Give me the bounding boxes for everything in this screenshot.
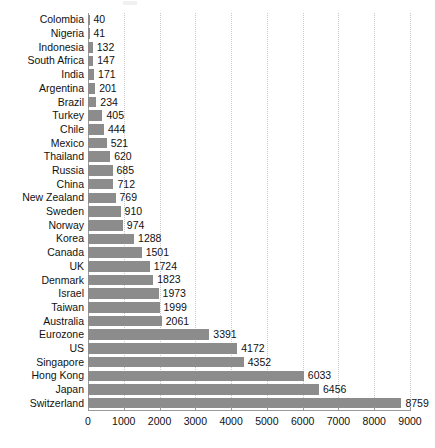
bar-rows: 4041132147171201234405444521620685712769… bbox=[88, 13, 410, 410]
category-label: US bbox=[0, 342, 84, 355]
category-label: Japan bbox=[0, 383, 84, 396]
x-tick-1000 bbox=[124, 407, 125, 411]
category-label: Korea bbox=[0, 232, 84, 245]
category-label: Chile bbox=[0, 123, 84, 136]
x-tick-label: 1000 bbox=[112, 414, 135, 428]
x-tick-label: 7000 bbox=[327, 414, 350, 428]
category-label: Israel bbox=[0, 287, 84, 300]
bar-row: 712 bbox=[88, 177, 410, 191]
x-tick-3000 bbox=[195, 407, 196, 411]
plot-area: 4041132147171201234405444521620685712769… bbox=[88, 13, 410, 410]
bar-value-label: 2061 bbox=[162, 315, 189, 328]
bar bbox=[88, 138, 107, 149]
bar-row: 8759 bbox=[88, 396, 410, 410]
category-label: New Zealand bbox=[0, 191, 84, 204]
x-tick-label: 8000 bbox=[363, 414, 386, 428]
bar bbox=[88, 247, 142, 258]
bar-row: 444 bbox=[88, 123, 410, 137]
bar-value-label: 1288 bbox=[134, 232, 161, 245]
bar-row: 974 bbox=[88, 218, 410, 232]
bar-value-label: 6033 bbox=[304, 369, 331, 382]
category-label: Russia bbox=[0, 164, 84, 177]
x-tick-label: 9000 bbox=[398, 414, 421, 428]
category-label: India bbox=[0, 68, 84, 81]
bar-value-label: 6456 bbox=[319, 383, 346, 396]
category-label: Eurozone bbox=[0, 328, 84, 341]
bar-value-label: 234 bbox=[96, 96, 118, 109]
bar bbox=[88, 151, 110, 162]
x-tick-7000 bbox=[338, 407, 339, 411]
bar bbox=[88, 124, 104, 135]
bar-row: 234 bbox=[88, 95, 410, 109]
bar bbox=[88, 288, 159, 299]
bar bbox=[88, 398, 401, 409]
category-label: Argentina bbox=[0, 82, 84, 95]
bar-row: 4352 bbox=[88, 355, 410, 369]
bar-row: 4172 bbox=[88, 342, 410, 356]
x-tick-8000 bbox=[374, 407, 375, 411]
category-label: Nigeria bbox=[0, 27, 84, 40]
x-tick-label: 6000 bbox=[291, 414, 314, 428]
x-tick-2000 bbox=[160, 407, 161, 411]
bar-row: 1501 bbox=[88, 246, 410, 260]
bar-row: 1999 bbox=[88, 300, 410, 314]
bar-row: 1724 bbox=[88, 259, 410, 273]
category-label: Thailand bbox=[0, 150, 84, 163]
category-label: Switzerland bbox=[0, 397, 84, 410]
bar bbox=[88, 110, 102, 121]
bar-value-label: 1999 bbox=[160, 301, 187, 314]
bar-value-label: 201 bbox=[95, 82, 117, 95]
bar-value-label: 405 bbox=[102, 109, 124, 122]
bar-row: 6456 bbox=[88, 383, 410, 397]
category-label: Turkey bbox=[0, 109, 84, 122]
x-tick-4000 bbox=[231, 407, 232, 411]
bar-value-label: 3391 bbox=[209, 328, 236, 341]
x-tick-label: 2000 bbox=[148, 414, 171, 428]
bar-row: 1823 bbox=[88, 273, 410, 287]
bar-value-label: 1724 bbox=[150, 260, 177, 273]
bar-row: 405 bbox=[88, 109, 410, 123]
category-label: Denmark bbox=[0, 274, 84, 287]
bar-value-label: 41 bbox=[90, 27, 106, 40]
bar-row: 910 bbox=[88, 205, 410, 219]
x-tick-0 bbox=[88, 407, 89, 411]
bar-value-label: 40 bbox=[90, 13, 106, 26]
bar-value-label: 132 bbox=[93, 41, 115, 54]
bar bbox=[88, 206, 121, 217]
bar-value-label: 521 bbox=[107, 137, 129, 150]
bar-row: 685 bbox=[88, 164, 410, 178]
bar bbox=[88, 329, 209, 340]
category-label: Australia bbox=[0, 315, 84, 328]
bar-value-label: 910 bbox=[121, 205, 143, 218]
bar-value-label: 4172 bbox=[237, 342, 264, 355]
category-label: Mexico bbox=[0, 137, 84, 150]
x-axis-tick-labels: 0100020003000400050006000700080009000 bbox=[88, 414, 410, 430]
category-label: UK bbox=[0, 260, 84, 273]
category-label: China bbox=[0, 178, 84, 191]
bar-value-label: 712 bbox=[113, 178, 135, 191]
bar-row: 1973 bbox=[88, 287, 410, 301]
bar bbox=[88, 357, 244, 368]
x-tick-9000 bbox=[410, 407, 411, 411]
bar-value-label: 4352 bbox=[244, 356, 271, 369]
x-tick-5000 bbox=[267, 407, 268, 411]
bar bbox=[88, 220, 123, 231]
bar-value-label: 685 bbox=[113, 164, 135, 177]
bar-row: 769 bbox=[88, 191, 410, 205]
bar bbox=[88, 275, 153, 286]
category-label: Taiwan bbox=[0, 301, 84, 314]
x-tick-label: 0 bbox=[85, 414, 91, 428]
bar-row: 3391 bbox=[88, 328, 410, 342]
x-tick-label: 5000 bbox=[255, 414, 278, 428]
bar-row: 6033 bbox=[88, 369, 410, 383]
bar-row: 620 bbox=[88, 150, 410, 164]
bar-row: 147 bbox=[88, 54, 410, 68]
bar-value-label: 974 bbox=[123, 219, 145, 232]
bar-value-label: 8759 bbox=[401, 397, 428, 410]
bar-row: 521 bbox=[88, 136, 410, 150]
x-tick-6000 bbox=[303, 407, 304, 411]
bar bbox=[88, 343, 237, 354]
bar-value-label: 171 bbox=[94, 68, 116, 81]
category-label: South Africa bbox=[0, 54, 84, 67]
x-axis-line bbox=[88, 410, 410, 413]
